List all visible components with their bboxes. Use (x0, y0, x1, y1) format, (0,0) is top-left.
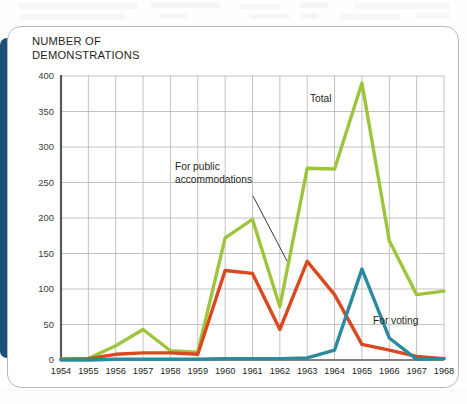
x-tick-label: 1956 (105, 366, 125, 376)
x-tick-label: 1959 (188, 366, 208, 376)
y-tick-label: 50 (44, 319, 54, 330)
x-tick-label: 1964 (324, 366, 344, 376)
y-tick-label: 250 (38, 177, 54, 188)
chart-plot-area: 050100150200250300350400 195419551956195… (0, 0, 467, 404)
chart-svg: 050100150200250300350400 195419551956195… (0, 0, 467, 404)
y-axis-tick-labels: 050100150200250300350400 (38, 70, 54, 365)
voting-label: For voting (373, 315, 419, 326)
y-tick-label: 0 (49, 354, 54, 365)
x-tick-label: 1963 (297, 366, 317, 376)
y-tick-label: 300 (38, 141, 54, 152)
y-tick-label: 200 (38, 212, 54, 223)
y-tick-label: 150 (38, 248, 54, 259)
x-tick-label: 1966 (379, 366, 399, 376)
x-tick-label: 1965 (352, 366, 372, 376)
x-axis-tick-labels: 1954195519561957195819591960196119621963… (51, 366, 454, 376)
x-tick-label: 1967 (406, 366, 426, 376)
total-label: Total (310, 93, 332, 104)
x-tick-label: 1968 (434, 366, 454, 376)
x-tick-label: 1962 (270, 366, 290, 376)
leader-line (253, 196, 287, 261)
x-tick-label: 1960 (215, 366, 235, 376)
public-accommodations-label: For publicaccommodations (175, 161, 252, 185)
y-tick-label: 400 (38, 70, 54, 81)
x-tick-label: 1957 (133, 366, 153, 376)
y-tick-label: 100 (38, 283, 54, 294)
x-tick-label: 1961 (242, 366, 262, 376)
x-tick-label: 1954 (51, 366, 71, 376)
y-tick-label: 350 (38, 106, 54, 117)
x-tick-label: 1958 (160, 366, 180, 376)
x-tick-label: 1955 (78, 366, 98, 376)
annotation-leader-line (253, 196, 287, 261)
